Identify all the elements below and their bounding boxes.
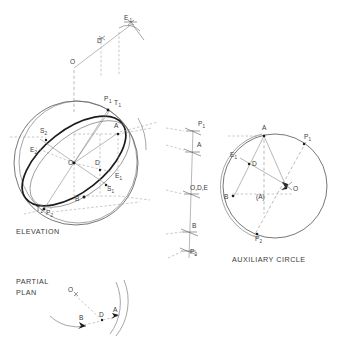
label-aux-B: B	[224, 193, 229, 200]
partial-plan-labels: O B D A	[68, 286, 118, 321]
label-elev-S1-sub: 1	[112, 189, 115, 194]
technical-drawing-canvas: O D E 1 P 1 T 1 A S 2 E 2 O D E 1 S 1 B …	[0, 0, 347, 342]
dot-plan-D	[101, 319, 103, 321]
label-plan-B: B	[79, 314, 84, 321]
dot-S2	[45, 139, 47, 141]
feeler-ODE	[166, 190, 183, 194]
aux-chord-A-B	[234, 136, 264, 196]
dot-B	[83, 196, 86, 199]
label-elev-B: B	[75, 195, 80, 202]
feeler-P1	[166, 128, 184, 131]
label-side-P2-sub: 2	[195, 252, 198, 257]
datum-right-lower	[118, 196, 150, 200]
dot-aux-B	[232, 195, 235, 198]
label-elev-S2-sub: 2	[45, 131, 48, 136]
plan-O-cross	[74, 292, 78, 296]
datum-long-lower	[52, 202, 140, 212]
tangent-arc-right	[138, 118, 146, 150]
label-side-ODE: O,D,E	[190, 184, 209, 191]
dot-A	[117, 133, 120, 136]
elevation-group	[7, 99, 158, 225]
caption-elevation: ELEVATION	[16, 227, 60, 236]
label-top-E1-sub: 1	[130, 18, 133, 23]
feeler-P2	[168, 252, 181, 258]
plan-chain-B-D	[84, 321, 101, 325]
label-elev-T2: T	[36, 205, 40, 212]
dot-aux-A	[263, 135, 266, 138]
label-top-D: D	[97, 37, 102, 44]
label-aux-E1-sub: 1	[235, 155, 238, 160]
tick-side-ODE-slant	[183, 191, 200, 198]
label-elev-T2-sub: 2	[41, 209, 44, 214]
dot-aux-D	[248, 163, 250, 165]
plan-arrow-B	[78, 322, 86, 329]
caption-partial-plan-line2: PLAN	[16, 288, 37, 297]
label-elev-A: A	[114, 122, 119, 129]
label-elev-E1-sub: 1	[120, 176, 123, 181]
aux-diameter-P1-P2	[254, 142, 306, 236]
plan-arc-outer	[116, 280, 128, 336]
label-elev-P1-sub: 1	[109, 99, 112, 104]
feeler-A	[166, 145, 184, 150]
label-aux-O: O	[293, 185, 298, 192]
dot-D	[99, 169, 101, 171]
drawing-sheet: O D E 1 P 1 T 1 A S 2 E 2 O D E 1 S 1 B …	[0, 0, 347, 342]
label-aux-A: A	[262, 124, 267, 131]
label-elev-T1: T	[114, 99, 118, 106]
label-plan-D: D	[99, 311, 104, 318]
caption-partial-plan-line1: PARTIAL	[16, 277, 49, 286]
label-elev-T1-sub: 1	[119, 103, 122, 108]
label-side-A: A	[197, 141, 202, 148]
side-view-line-group	[166, 128, 201, 258]
feeler-B	[166, 232, 182, 234]
sphere-outline-circle	[14, 101, 138, 225]
top-inclined-line	[74, 24, 132, 68]
ray-O-to-E1	[74, 163, 112, 172]
dot-aux-P1	[303, 143, 305, 145]
label-plan-A: A	[113, 306, 118, 313]
label-elev-O: O	[68, 159, 73, 166]
label-aux-P2-sub: 2	[260, 239, 263, 244]
label-aux-P1-sub: 1	[309, 137, 312, 142]
auxiliary-circle-group	[220, 134, 327, 238]
label-elev-P2-sub: 2	[51, 213, 54, 218]
label-elev-E2-sub: 2	[35, 150, 38, 155]
label-plan-O: O	[68, 286, 73, 293]
dot-P1	[107, 109, 110, 112]
datum-right-upper	[118, 128, 152, 134]
auxiliary-inner-arc	[220, 134, 262, 238]
elevation-labels: P 1 T 1 A S 2 E 2 O D E 1 S 1 B T 2 P 2	[30, 95, 123, 218]
label-aux-Abracket: (A)	[256, 193, 265, 201]
auxiliary-outline-circle	[223, 134, 327, 238]
label-side-B: B	[192, 222, 197, 229]
caption-auxiliary-circle: AUXILIARY CIRCLE	[232, 255, 306, 264]
label-aux-D: D	[252, 160, 257, 167]
label-top-E1: E	[124, 14, 129, 21]
label-side-P1-sub: 1	[203, 124, 206, 129]
label-top-O: O	[70, 58, 75, 65]
label-elev-D: D	[95, 159, 100, 166]
